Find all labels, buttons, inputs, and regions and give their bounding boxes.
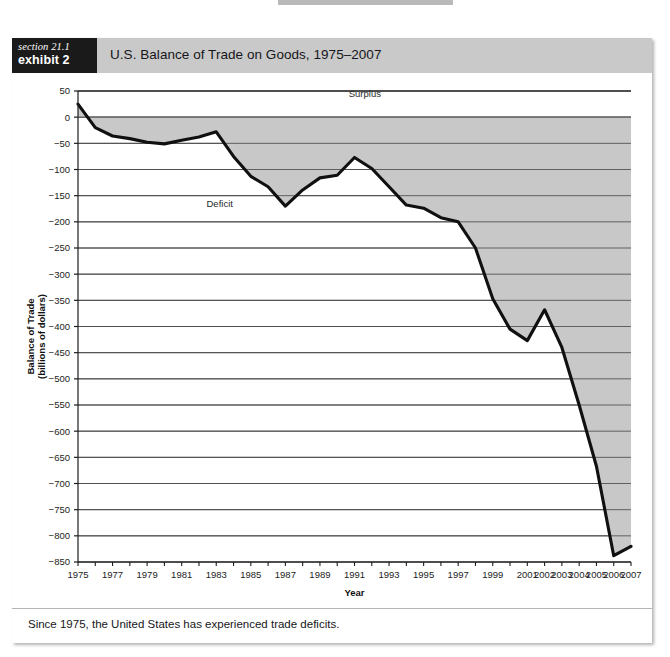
y-axis-ticks: 500−50−100−150−200−250−300−350−400−450−5…	[49, 85, 78, 567]
y-tick-label: −400	[49, 321, 70, 332]
exhibit-label: exhibit 2	[18, 53, 97, 68]
balance-of-trade-chart: 500−50−100−150−200−250−300−350−400−450−5…	[12, 73, 652, 608]
x-tick-label: 2007	[620, 569, 641, 580]
x-tick-label: 1989	[309, 569, 330, 580]
x-tick-label: 1991	[344, 569, 365, 580]
figure-caption: Since 1975, the United States has experi…	[28, 618, 339, 630]
deficit-shaded-area	[78, 104, 631, 556]
x-tick-label: 1993	[378, 569, 399, 580]
x-tick-label: 1981	[171, 569, 192, 580]
y-tick-label: −250	[49, 242, 70, 253]
x-tick-label: 1979	[137, 569, 158, 580]
chart-annotation-surplus: Surplus	[349, 88, 381, 99]
y-tick-label: 0	[65, 112, 70, 123]
y-axis-title-line1: Balance of Trade	[25, 298, 36, 374]
section-label: section 21.1	[18, 41, 97, 53]
y-tick-label: −450	[49, 347, 70, 358]
chart-annotation-deficit: Deficit	[207, 198, 234, 209]
x-tick-label: 1983	[206, 569, 227, 580]
y-tick-label: −200	[49, 216, 70, 227]
page-bleed-block	[278, 0, 453, 5]
y-tick-label: −600	[49, 426, 70, 437]
y-tick-label: −100	[49, 164, 70, 175]
y-tick-label: −650	[49, 452, 70, 463]
x-tick-label: 1975	[67, 569, 88, 580]
y-tick-label: −850	[49, 556, 70, 567]
x-tick-label: 1995	[413, 569, 434, 580]
y-tick-label: −750	[49, 504, 70, 515]
y-tick-label: −50	[54, 138, 70, 149]
exhibit-figure: section 21.1 exhibit 2 U.S. Balance of T…	[12, 38, 652, 643]
y-tick-label: −150	[49, 190, 70, 201]
y-tick-label: −500	[49, 373, 70, 384]
x-tick-label: 1997	[448, 569, 469, 580]
y-axis-title-line2: (billions of dollars)	[36, 294, 47, 379]
page-title: U.S. Balance of Trade on Goods, 1975–200…	[110, 47, 382, 62]
page-bleed-region: current account since 1975.	[0, 0, 670, 32]
y-tick-label: −300	[49, 269, 70, 280]
x-tick-label: 1985	[240, 569, 261, 580]
caption-divider	[12, 608, 652, 609]
x-tick-label: 1999	[482, 569, 503, 580]
x-axis-ticks: 1975197719791981198319851987198919911993…	[67, 562, 641, 580]
axis-titles: YearBalance of Trade(billions of dollars…	[25, 294, 365, 598]
x-tick-label: 1977	[102, 569, 123, 580]
y-tick-label: −550	[49, 399, 70, 410]
chart-plot-area: 500−50−100−150−200−250−300−350−400−450−5…	[12, 73, 652, 608]
y-tick-label: 50	[59, 85, 70, 96]
y-tick-label: −350	[49, 295, 70, 306]
y-axis-title: Balance of Trade(billions of dollars)	[25, 294, 47, 379]
y-tick-label: −700	[49, 478, 70, 489]
x-tick-label: 1987	[275, 569, 296, 580]
x-axis-title: Year	[344, 587, 364, 598]
exhibit-section-box: section 21.1 exhibit 2	[12, 38, 97, 73]
y-tick-label: −800	[49, 530, 70, 541]
page-bleed-text: current account since 1975.	[470, 0, 613, 4]
